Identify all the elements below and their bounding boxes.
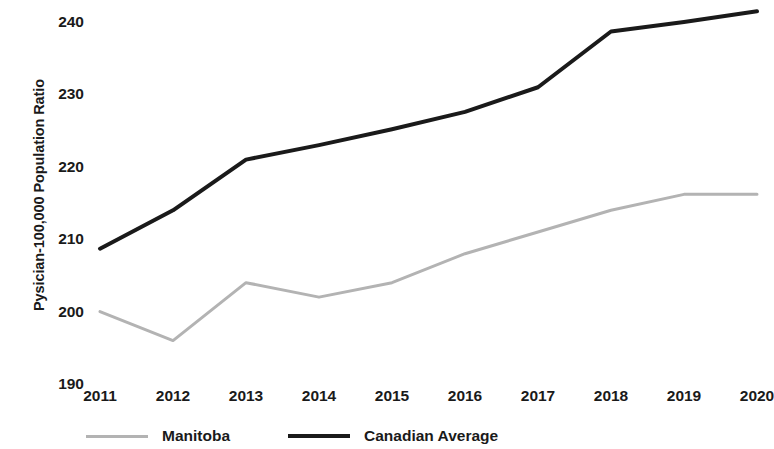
x-tick-label: 2013 xyxy=(229,388,263,404)
y-tick-label: 210 xyxy=(32,231,84,247)
chart-legend: Manitoba Canadian Average xyxy=(86,424,498,448)
x-axis-tick-labels: 2011201220132014201520162017201820192020 xyxy=(92,388,765,412)
legend-label-manitoba: Manitoba xyxy=(162,428,230,444)
y-tick-label: 220 xyxy=(32,159,84,175)
legend-item-canadian-average: Canadian Average xyxy=(288,428,498,444)
legend-swatch-manitoba xyxy=(86,435,148,438)
x-tick-label: 2019 xyxy=(667,388,701,404)
x-tick-label: 2014 xyxy=(302,388,336,404)
x-tick-label: 2018 xyxy=(594,388,628,404)
plot-area xyxy=(92,4,765,384)
y-tick-label: 200 xyxy=(32,304,84,320)
x-tick-label: 2017 xyxy=(521,388,555,404)
y-tick-label: 190 xyxy=(32,376,84,392)
y-tick-label: 230 xyxy=(32,86,84,102)
x-tick-label: 2020 xyxy=(740,388,774,404)
x-tick-label: 2011 xyxy=(83,388,117,404)
legend-swatch-canadian-average xyxy=(288,434,350,438)
legend-item-manitoba: Manitoba xyxy=(86,428,230,444)
series-line-manitoba xyxy=(100,194,757,340)
series-line-canadian-average xyxy=(100,11,757,248)
y-tick-label: 240 xyxy=(32,14,84,30)
x-tick-label: 2012 xyxy=(156,388,190,404)
x-tick-label: 2015 xyxy=(375,388,409,404)
y-axis-tick-labels: 190200210220230240 xyxy=(30,0,84,449)
x-tick-label: 2016 xyxy=(448,388,482,404)
legend-label-canadian-average: Canadian Average xyxy=(364,428,498,444)
plot-svg xyxy=(92,4,765,384)
